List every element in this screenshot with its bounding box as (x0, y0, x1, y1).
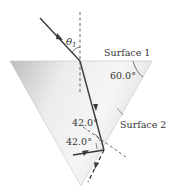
prism-diagram: θ1 Surface 1 60.0° Surface 2 42.0° 42.0° (0, 0, 174, 194)
surface2-label: Surface 2 (120, 119, 166, 130)
angle-incident-label: 42.0° (72, 117, 98, 128)
transmitted-arrow-icon (94, 162, 99, 169)
apex-angle-label: 60.0° (110, 70, 136, 81)
angle-reflected-label: 42.0° (66, 136, 92, 147)
incident-arrow-icon (56, 33, 63, 40)
surface1-label: Surface 1 (104, 47, 150, 58)
